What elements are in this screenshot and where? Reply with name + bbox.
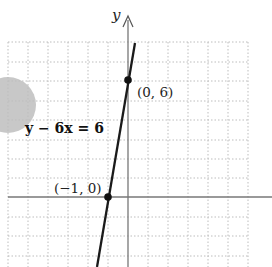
equation-label: y − 6x = 6 [24, 120, 104, 136]
y-axis-label: y [111, 6, 121, 24]
point-b-label: (−1, 0) [54, 180, 102, 196]
point-0-6 [124, 76, 132, 84]
point-a-label: (0, 6) [137, 84, 173, 100]
coordinate-plot: y (0, 6) (−1, 0) y − 6x = 6 [0, 0, 272, 267]
point-neg1-0 [104, 193, 112, 201]
